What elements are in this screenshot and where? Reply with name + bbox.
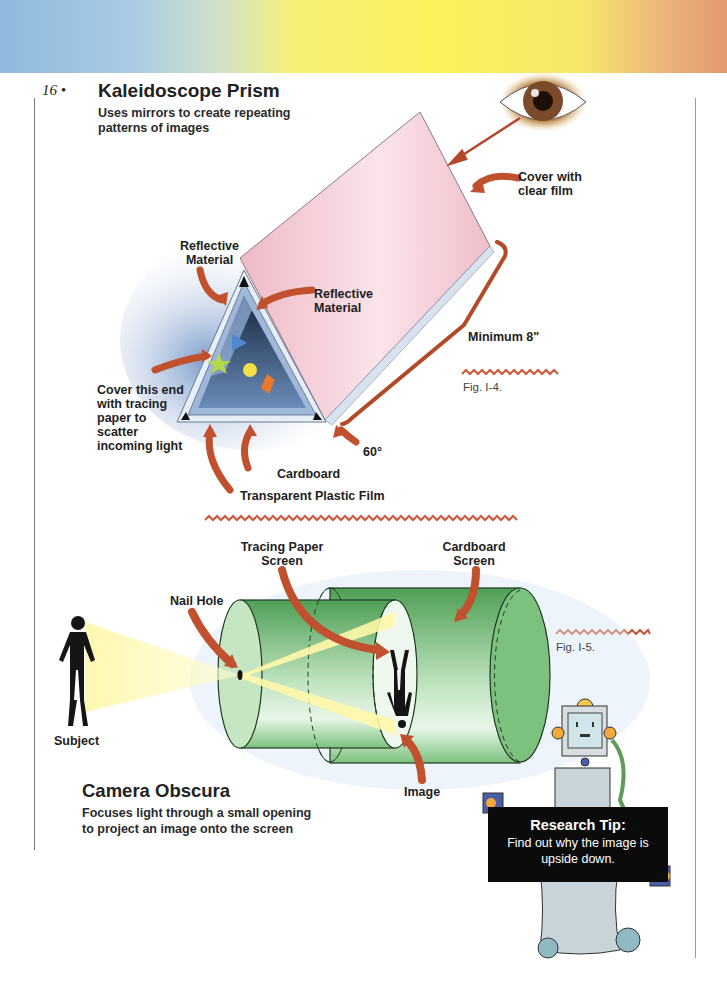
- label-cardboard-screen: Cardboard Screen: [434, 540, 514, 568]
- label-angle: 60°: [363, 445, 382, 459]
- figure-caption-i4: Fig. I-4.: [463, 381, 502, 393]
- camera-obscura-title: Camera Obscura: [82, 780, 230, 802]
- research-tip-heading: Research Tip:: [488, 817, 668, 833]
- label-transparent-plastic-film: Transparent Plastic Film: [240, 489, 385, 503]
- label-nail-hole: Nail Hole: [170, 594, 224, 608]
- label-minimum-length: Minimum 8": [468, 330, 539, 344]
- camera-obscura-illustration: [59, 570, 650, 790]
- label-cardboard: Cardboard: [277, 467, 340, 481]
- label-cover-end-tracing-paper: Cover this end with tracing paper to sca…: [97, 383, 187, 453]
- label-cover-clear-film: Cover with clear film: [518, 170, 598, 198]
- label-tracing-paper-screen: Tracing Paper Screen: [232, 540, 332, 568]
- camera-obscura-description: Focuses light through a small opening to…: [82, 805, 312, 837]
- label-subject: Subject: [54, 734, 99, 748]
- research-tip-sign: Research Tip: Find out why the image is …: [488, 807, 668, 882]
- sight-line-arrow: [450, 118, 520, 164]
- label-image: Image: [404, 785, 440, 799]
- label-reflective-material-left: Reflective Material: [172, 239, 247, 267]
- research-tip-text: Find out why the image is upside down.: [488, 835, 668, 867]
- label-reflective-material-right: Reflective Material: [314, 287, 389, 315]
- figure-caption-i5: Fig. I-5.: [556, 641, 595, 653]
